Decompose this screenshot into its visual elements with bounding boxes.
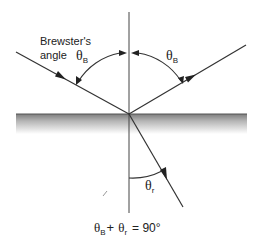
reflected-arrowhead-icon xyxy=(185,75,196,83)
incident-arrowhead-icon xyxy=(55,71,66,80)
interface-medium xyxy=(16,114,247,134)
stray-mark xyxy=(103,191,107,196)
brewster-label-line1: Brewster's xyxy=(40,35,91,47)
brewster-equation: θB+θr= 90° xyxy=(94,220,161,237)
theta-b-left-label: θB xyxy=(76,48,88,65)
brewster-label-line2: angle xyxy=(40,49,67,61)
incident-ray xyxy=(16,52,129,114)
arc-arrowhead-icon xyxy=(119,50,127,56)
brewster-diagram: Brewster's angle θB θB θr θB+θr= 90° xyxy=(0,0,260,249)
arc-arrowhead-icon xyxy=(131,50,139,56)
theta-r-label: θr xyxy=(145,178,155,195)
theta-b-right-label: θB xyxy=(166,48,178,65)
